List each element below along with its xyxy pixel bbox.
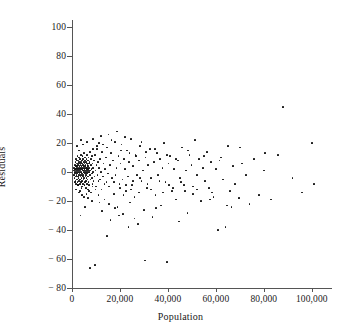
data-point	[121, 144, 123, 146]
data-point	[87, 197, 89, 199]
data-point	[89, 174, 91, 176]
data-point	[117, 206, 119, 208]
data-point	[185, 170, 187, 172]
data-point	[86, 193, 88, 195]
data-point	[98, 167, 100, 169]
data-point	[277, 154, 279, 156]
data-point	[119, 183, 121, 185]
data-point	[86, 141, 88, 143]
data-point	[123, 194, 125, 196]
data-point	[104, 168, 106, 170]
data-point	[181, 147, 183, 149]
data-point	[104, 183, 106, 185]
plot-area	[72, 20, 331, 288]
x-axis-tick	[312, 288, 313, 292]
x-axis-tick-label: 40,000	[155, 294, 182, 304]
data-point	[110, 152, 112, 154]
x-axis-tick-label: 20,000	[107, 294, 134, 304]
data-point	[159, 158, 161, 160]
data-point	[219, 160, 221, 162]
data-point	[89, 267, 91, 269]
data-point	[88, 157, 90, 159]
x-axis-tick	[264, 288, 265, 292]
data-point	[87, 179, 89, 181]
data-point	[234, 183, 236, 185]
data-point	[100, 171, 102, 173]
data-point	[80, 139, 82, 141]
data-point	[91, 155, 93, 157]
data-point	[189, 154, 191, 156]
data-point	[311, 142, 313, 144]
data-point	[108, 134, 110, 136]
data-point	[147, 183, 149, 185]
y-axis-tick-label: − 60	[48, 254, 66, 264]
data-point	[178, 221, 180, 223]
y-axis-tick-label: − 20	[48, 196, 66, 206]
data-point	[77, 181, 79, 183]
data-point	[120, 150, 122, 152]
data-point	[100, 135, 102, 137]
data-point	[91, 177, 93, 179]
data-point	[92, 148, 94, 150]
data-point	[172, 187, 174, 189]
data-point	[134, 196, 136, 198]
data-point	[84, 206, 86, 208]
data-point	[106, 147, 108, 149]
data-point	[87, 176, 89, 178]
data-point	[206, 151, 208, 153]
data-point	[282, 106, 284, 108]
data-point	[83, 179, 85, 181]
data-point	[187, 212, 189, 214]
y-axis-tick-label: − 40	[48, 225, 66, 235]
data-point	[94, 154, 96, 156]
data-point	[124, 168, 126, 170]
y-axis-tick	[67, 172, 72, 173]
data-point	[126, 150, 128, 152]
data-point	[144, 260, 146, 262]
data-point	[136, 174, 138, 176]
data-point	[132, 180, 134, 182]
data-point	[79, 179, 81, 181]
data-point	[200, 200, 202, 202]
data-point	[88, 190, 90, 192]
y-axis-tick-label: 80	[56, 51, 66, 61]
data-point	[79, 183, 81, 185]
data-point	[92, 183, 94, 185]
data-point	[229, 190, 231, 192]
data-point	[105, 157, 107, 159]
data-point	[114, 141, 116, 143]
data-point	[114, 207, 116, 209]
x-axis-tick	[216, 288, 217, 292]
data-point	[194, 139, 196, 141]
data-point	[81, 177, 83, 179]
data-point	[129, 152, 131, 154]
data-point	[130, 189, 132, 191]
data-point	[125, 190, 127, 192]
data-point	[115, 174, 117, 176]
data-point	[184, 190, 186, 192]
data-point	[101, 151, 103, 153]
y-axis-tick-label: 100	[51, 22, 66, 32]
data-point	[139, 177, 141, 179]
data-point	[92, 163, 94, 165]
data-point	[264, 152, 266, 154]
y-axis-tick-label: 40	[56, 109, 66, 119]
data-point	[97, 161, 99, 163]
data-point	[81, 187, 83, 189]
data-point	[102, 144, 104, 146]
data-point	[108, 186, 110, 188]
data-point	[226, 205, 228, 207]
data-point	[75, 189, 77, 191]
data-point	[215, 168, 217, 170]
data-point	[111, 139, 113, 141]
data-point	[187, 150, 189, 152]
data-point	[150, 189, 152, 191]
data-point	[169, 155, 171, 157]
data-point	[220, 157, 222, 159]
data-point	[245, 174, 247, 176]
data-point	[166, 154, 168, 156]
data-point	[74, 181, 76, 183]
data-point	[101, 189, 103, 191]
data-point	[198, 158, 200, 160]
data-point	[84, 184, 86, 186]
